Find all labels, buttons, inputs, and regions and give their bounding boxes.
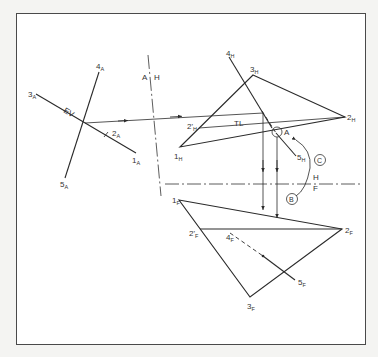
fold-label-h-top: H: [313, 173, 319, 182]
arrow-a1: [118, 121, 128, 122]
fold-label-f-bottom: F: [313, 184, 318, 193]
label-4h: 4H: [226, 49, 234, 59]
label-1f: 1F: [172, 196, 180, 206]
label-1h: 1H: [174, 152, 182, 162]
callout-b-label: B: [289, 196, 294, 203]
label-2f: 2F: [345, 226, 353, 236]
label-2h: 2H: [347, 113, 355, 123]
fold-label-h: H: [154, 73, 160, 82]
label-2a: 2A: [112, 129, 120, 139]
fold-label-a: A: [142, 73, 148, 82]
label-2prime-h: 2'H: [187, 122, 197, 132]
label-3a: 3A: [28, 90, 36, 100]
callout-b-arrow: [296, 168, 310, 196]
descriptive-geometry-drawing: 4A 3A EV 2A 1A 5A A H 4H 3H 2H 2'H TL 1H…: [0, 0, 378, 357]
label-ev: EV: [62, 106, 76, 119]
label-5a: 5A: [60, 180, 68, 190]
arrow-a2: [170, 116, 182, 117]
auxiliary-view: [36, 72, 263, 178]
label-piercing-a: A: [284, 128, 290, 137]
line-4-5-frontal-hidden: [230, 233, 263, 256]
callout-c-label: C: [317, 157, 322, 164]
line-4-5-auxiliary: [65, 72, 99, 178]
label-4a: 4A: [96, 62, 104, 72]
true-length-line: [199, 117, 345, 128]
label-5f: 5F: [298, 278, 306, 288]
label-5h: 5H: [297, 153, 305, 163]
piercing-point-frontal: [262, 255, 265, 258]
frontal-view: [179, 200, 342, 297]
piercing-point-a: [272, 127, 282, 137]
label-tl: TL: [234, 119, 244, 128]
label-3h: 3H: [250, 65, 258, 75]
line-4-5-frontal-visible: [263, 256, 295, 280]
label-4f: 4F: [226, 233, 234, 243]
label-1a: 1A: [132, 156, 140, 166]
plane-triangle-frontal: [179, 200, 342, 297]
plane-edge-view-line: [36, 94, 136, 153]
horizontal-view: [180, 57, 345, 156]
label-3f: 3F: [247, 302, 255, 312]
label-2prime-f: 2'F: [189, 229, 199, 239]
